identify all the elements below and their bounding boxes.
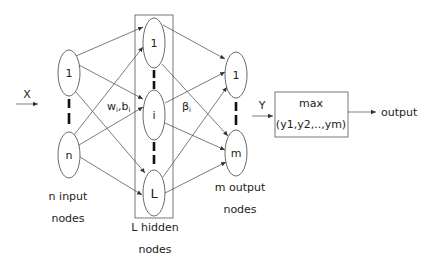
weights-w: wi,bi bbox=[107, 100, 130, 114]
output-caption: m output bbox=[215, 181, 266, 194]
input-layer: 1 n n input nodes bbox=[49, 50, 88, 225]
x-label: X bbox=[23, 88, 31, 101]
hidden-layer: 1 i L L hidden nodes bbox=[131, 18, 178, 256]
max-box-title: max bbox=[299, 97, 323, 110]
output-node-m-label: m bbox=[231, 147, 242, 160]
input-caption: n input bbox=[49, 190, 88, 203]
hidden-node-L-label: L bbox=[150, 186, 158, 201]
hidden-node-i-label: i bbox=[152, 109, 155, 122]
hidden-caption: L hidden bbox=[131, 221, 178, 234]
beta-label: βi bbox=[182, 100, 191, 114]
hidden-node-1-label: 1 bbox=[151, 37, 158, 50]
max-function: Y max (y1,y2,..,ym) output bbox=[252, 92, 418, 137]
max-box-args: (y1,y2,..,ym) bbox=[276, 118, 346, 131]
output-caption-2: nodes bbox=[223, 203, 256, 216]
elm-network-diagram: X 1 n n input nodes 1 i bbox=[0, 0, 430, 266]
hidden-caption-2: nodes bbox=[138, 243, 171, 256]
y-label: Y bbox=[258, 99, 266, 112]
hidden-output-edges bbox=[162, 25, 228, 193]
output-node-1-label: 1 bbox=[233, 69, 240, 82]
output-layer: 1 m m output nodes bbox=[215, 52, 266, 216]
input-node-n-label: n bbox=[66, 149, 73, 162]
input-node-1-label: 1 bbox=[66, 67, 73, 80]
output-label: output bbox=[381, 106, 418, 119]
input-caption-2: nodes bbox=[51, 212, 84, 225]
input-arrow: X bbox=[16, 88, 38, 104]
